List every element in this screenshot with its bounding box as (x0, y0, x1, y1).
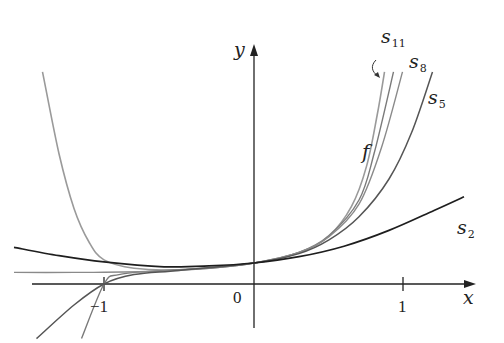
curve-label-s5: s5 (428, 88, 446, 110)
curve-label-s8-sub: 8 (420, 62, 427, 75)
curve-label-s11-base: s (381, 25, 391, 47)
curve-label-f: f (362, 142, 369, 162)
curve-label-s2-sub: 2 (468, 228, 475, 241)
curve-label-s8: s8 (409, 52, 427, 74)
curve-label-s2: s2 (457, 218, 475, 240)
curve-label-s8-base: s (409, 50, 419, 72)
curve-s2 (14, 197, 464, 267)
curve-label-s5-sub: 5 (439, 98, 446, 111)
curve-s8 (14, 72, 403, 273)
curve-label-s5-base: s (428, 86, 438, 108)
tick-label-one: 1 (398, 298, 407, 315)
tick-label-zero: 0 (233, 289, 242, 306)
curve-label-s11-sub: 11 (392, 37, 406, 50)
tick-label-neg-one: −1 (90, 298, 108, 315)
x-axis-label: x (463, 288, 474, 307)
curve-label-s11: s11 (381, 27, 406, 49)
plot-canvas (0, 0, 504, 343)
curve-label-s2-base: s (457, 216, 467, 238)
y-axis-label: y (234, 40, 245, 59)
y-axis-arrow-icon (250, 44, 258, 56)
curve-f (43, 72, 385, 270)
